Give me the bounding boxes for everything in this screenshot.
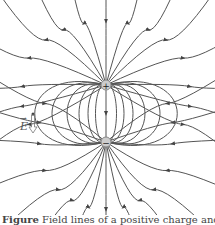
field-lines (0, 0, 215, 215)
field-line-negative (106, 142, 145, 215)
field-line-loop (96, 85, 107, 142)
caption-label: Figure (2, 214, 39, 225)
field-line-negative (106, 142, 215, 196)
field-line-negative (106, 142, 181, 215)
caption-text: Field lines of a positive charge and a n… (42, 214, 215, 225)
field-line-negative (106, 99, 215, 142)
field-line-loop (106, 84, 145, 144)
field-line-negative (0, 142, 106, 196)
field-line-loop (106, 85, 117, 142)
field-line-negative (67, 142, 106, 215)
field-line-negative (31, 142, 106, 215)
field-line-loop (106, 85, 124, 143)
field-vector-label: → E (20, 120, 28, 133)
field-line-loop (88, 85, 106, 143)
positive-charge: + (101, 80, 111, 91)
field-line-loop (67, 84, 106, 144)
field-line-positive (67, 0, 106, 85)
vector-arrow-icon: → (20, 114, 27, 123)
field-line-positive (106, 0, 181, 85)
positive-charge-sign: + (102, 81, 110, 91)
field-line-positive (106, 85, 215, 128)
negative-charge-sign: − (102, 138, 110, 148)
field-line-positive (0, 0, 106, 85)
negative-charge: − (101, 137, 111, 148)
field-line-positive (31, 0, 106, 85)
field-line-positive (106, 0, 145, 85)
figure-caption: Figure Field lines of a positive charge … (2, 214, 215, 225)
field-line-positive (106, 0, 212, 85)
dipole-field-diagram: + − (0, 0, 215, 215)
